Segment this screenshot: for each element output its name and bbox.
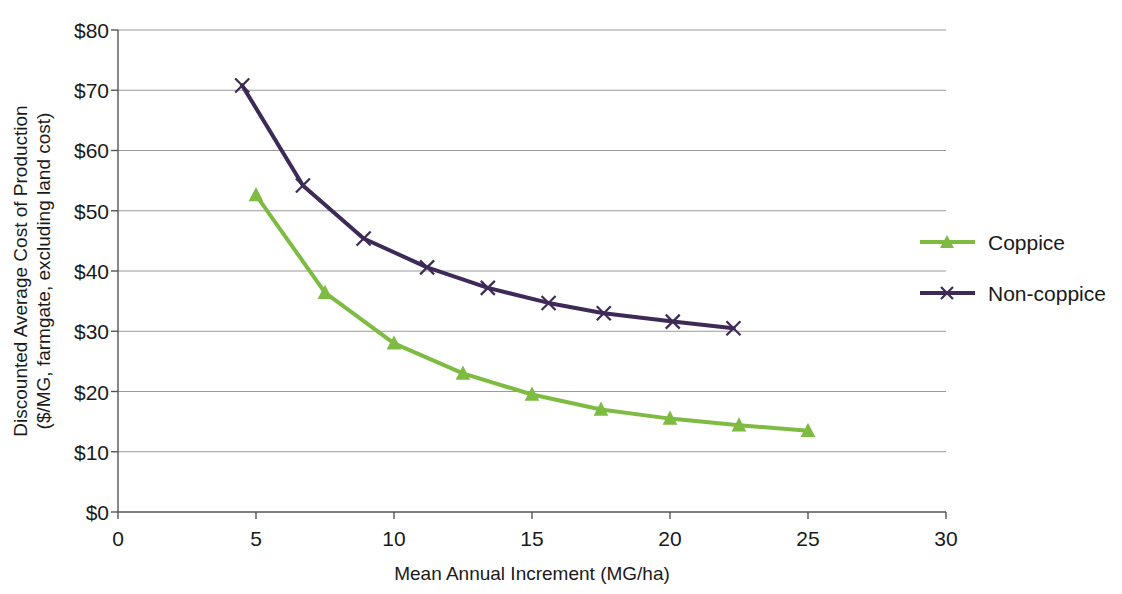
line-chart: $0 $10 $20 $30 $40 $50 $60 $70 $80 0 5 1…: [0, 0, 1122, 594]
chart-background: [0, 0, 1122, 594]
y-axis-title-line2: ($/MG, farmgate, excluding land cost): [33, 113, 54, 430]
x-tick-label: 10: [382, 527, 405, 550]
x-tick-label: 30: [934, 527, 957, 550]
legend-label-non-coppice: Non-coppice: [988, 282, 1106, 305]
y-tick-label: $70: [74, 79, 109, 102]
x-tick-label: 5: [250, 527, 262, 550]
y-tick-label: $0: [86, 501, 109, 524]
x-tick-label: 0: [112, 527, 124, 550]
y-tick-label: $30: [74, 320, 109, 343]
y-axis-title-line1: Discounted Average Cost of Production: [10, 105, 31, 436]
x-tick-label: 15: [520, 527, 543, 550]
y-tick-label: $20: [74, 381, 109, 404]
y-tick-label: $10: [74, 441, 109, 464]
x-axis-title: Mean Annual Increment (MG/ha): [394, 563, 670, 584]
y-tick-label: $40: [74, 260, 109, 283]
legend-label-coppice: Coppice: [988, 231, 1065, 254]
y-tick-label: $80: [74, 19, 109, 42]
chart-container: $0 $10 $20 $30 $40 $50 $60 $70 $80 0 5 1…: [0, 0, 1122, 594]
x-tick-label: 20: [658, 527, 681, 550]
y-axis-tick-labels: $0 $10 $20 $30 $40 $50 $60 $70 $80: [74, 19, 109, 524]
y-tick-label: $60: [74, 139, 109, 162]
y-tick-label: $50: [74, 200, 109, 223]
x-tick-label: 25: [796, 527, 819, 550]
